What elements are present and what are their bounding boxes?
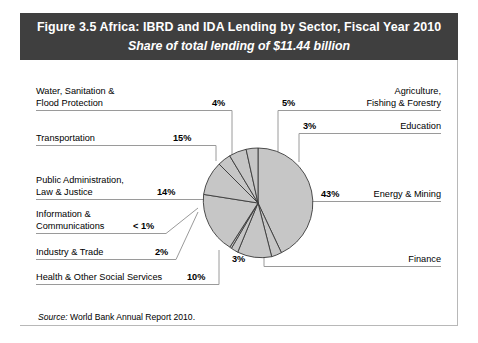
label-public-administration-line2: Law & Justice (36, 187, 124, 199)
label-information-communications-line2: Communications (36, 221, 104, 233)
source-note: Source: World Bank Annual Report 2010. (38, 312, 195, 322)
value-industry-trade: 2% (155, 247, 168, 257)
figure-title: Figure 3.5 Africa: IBRD and IDA Lending … (20, 18, 458, 37)
figure-container: Figure 3.5 Africa: IBRD and IDA Lending … (20, 13, 458, 326)
source-value: World Bank Annual Report 2010. (68, 312, 195, 322)
value-finance: 3% (232, 254, 245, 264)
label-water-sanitation: Water, Sanitation & Flood Protection (36, 86, 114, 109)
label-water-sanitation-line2: Flood Protection (36, 98, 114, 110)
label-education: Education (241, 121, 441, 133)
label-energy-mining-line1: Energy & Mining (241, 189, 441, 201)
pie-chart-area: Water, Sanitation & Flood Protection 4% … (20, 60, 458, 325)
pie-slices (203, 148, 313, 258)
value-transportation: 15% (173, 133, 191, 143)
label-energy-mining: Energy & Mining (241, 189, 441, 201)
figure-header: Figure 3.5 Africa: IBRD and IDA Lending … (20, 13, 458, 60)
label-health-social-services-line1: Health & Other Social Services (36, 272, 162, 284)
label-public-administration-line1: Public Administration, (36, 175, 124, 187)
value-public-administration: 14% (157, 187, 175, 197)
label-finance: Finance (241, 254, 441, 266)
value-health-social-services: 10% (187, 272, 205, 282)
figure-subtitle: Share of total lending of $11.44 billion (20, 37, 458, 55)
value-agriculture-fishing-forestry: 5% (282, 98, 295, 108)
label-public-administration: Public Administration, Law & Justice (36, 175, 124, 198)
value-energy-mining: 43% (321, 189, 339, 199)
value-information-communications: < 1% (133, 221, 154, 231)
label-agriculture-line1: Agriculture, (241, 86, 441, 98)
label-agriculture-line2: Fishing & Forestry (241, 98, 441, 110)
label-agriculture-fishing-forestry: Agriculture, Fishing & Forestry (241, 86, 441, 109)
label-transportation: Transportation (36, 133, 95, 145)
label-health-social-services: Health & Other Social Services (36, 272, 162, 284)
label-finance-line1: Finance (241, 254, 441, 266)
label-information-communications-line1: Information & (36, 209, 104, 221)
value-water-sanitation: 4% (212, 98, 225, 108)
label-education-line1: Education (241, 121, 441, 133)
label-information-communications: Information & Communications (36, 209, 104, 232)
source-label: Source: (38, 312, 68, 322)
label-industry-trade-line1: Industry & Trade (36, 247, 103, 259)
value-education: 3% (303, 121, 316, 131)
label-industry-trade: Industry & Trade (36, 247, 103, 259)
label-transportation-line1: Transportation (36, 133, 95, 145)
label-water-sanitation-line1: Water, Sanitation & (36, 86, 114, 98)
